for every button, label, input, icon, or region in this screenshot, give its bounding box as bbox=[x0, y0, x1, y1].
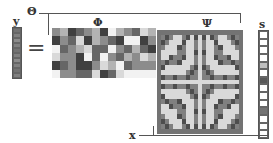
vector-cell bbox=[259, 115, 268, 123]
matrix-cell bbox=[124, 36, 132, 44]
vector-cell bbox=[259, 84, 268, 92]
matrix-cell bbox=[148, 53, 156, 61]
matrix-cell bbox=[124, 45, 132, 53]
matrix-cell bbox=[116, 45, 124, 53]
matrix-cell bbox=[100, 53, 108, 61]
vector-cell bbox=[259, 31, 268, 39]
matrix-cell bbox=[124, 70, 132, 78]
matrix-cell bbox=[76, 45, 84, 53]
vector-cell bbox=[259, 123, 268, 131]
vector-cell bbox=[259, 77, 268, 85]
matrix-cell bbox=[100, 45, 108, 53]
matrix-cell bbox=[132, 53, 140, 61]
matrix-cell bbox=[140, 28, 148, 36]
matrix-cell bbox=[108, 53, 116, 61]
matrix-cell bbox=[140, 61, 148, 69]
matrix-cell bbox=[148, 45, 156, 53]
vector-cell bbox=[13, 73, 21, 78]
matrix-cell bbox=[84, 70, 92, 78]
theta-bracket-right-tick bbox=[240, 13, 241, 23]
matrix-cell bbox=[140, 45, 148, 53]
matrix-cell bbox=[100, 61, 108, 69]
matrix-cell bbox=[100, 36, 108, 44]
matrix-cell bbox=[108, 45, 116, 53]
matrix-cell bbox=[239, 129, 243, 134]
matrix-cell bbox=[116, 70, 124, 78]
psi-matrix bbox=[157, 30, 243, 134]
matrix-cell bbox=[84, 28, 92, 36]
matrix-cell bbox=[60, 36, 68, 44]
matrix-cell bbox=[92, 28, 100, 36]
matrix-cell bbox=[68, 28, 76, 36]
matrix-cell bbox=[116, 61, 124, 69]
matrix-cell bbox=[60, 28, 68, 36]
matrix-cell bbox=[92, 53, 100, 61]
y-vector bbox=[12, 27, 22, 79]
matrix-cell bbox=[60, 61, 68, 69]
matrix-cell bbox=[132, 28, 140, 36]
vector-cell bbox=[259, 54, 268, 62]
matrix-cell bbox=[108, 28, 116, 36]
matrix-cell bbox=[140, 70, 148, 78]
matrix-cell bbox=[148, 70, 156, 78]
matrix-cell bbox=[76, 53, 84, 61]
matrix-cell bbox=[60, 45, 68, 53]
y-label: y bbox=[13, 16, 19, 27]
matrix-cell bbox=[76, 61, 84, 69]
x-bracket-right-tick bbox=[268, 126, 269, 136]
x-bracket-left-tick bbox=[153, 126, 154, 136]
x-label: x bbox=[129, 130, 136, 141]
matrix-cell bbox=[116, 53, 124, 61]
phi-label: Φ bbox=[93, 17, 103, 28]
s-label: s bbox=[259, 19, 265, 30]
matrix-cell bbox=[52, 53, 60, 61]
s-vector bbox=[258, 30, 269, 139]
matrix-cell bbox=[84, 36, 92, 44]
matrix-cell bbox=[52, 36, 60, 44]
matrix-cell bbox=[52, 28, 60, 36]
matrix-cell bbox=[148, 28, 156, 36]
vector-cell bbox=[259, 39, 268, 47]
matrix-cell bbox=[92, 61, 100, 69]
matrix-cell bbox=[60, 70, 68, 78]
matrix-cell bbox=[52, 61, 60, 69]
matrix-cell bbox=[84, 61, 92, 69]
matrix-cell bbox=[124, 53, 132, 61]
matrix-cell bbox=[60, 53, 68, 61]
matrix-cell bbox=[84, 53, 92, 61]
phi-matrix bbox=[52, 28, 156, 78]
vector-cell bbox=[259, 46, 268, 54]
matrix-cell bbox=[68, 36, 76, 44]
matrix-cell bbox=[132, 70, 140, 78]
matrix-cell bbox=[116, 36, 124, 44]
matrix-cell bbox=[132, 61, 140, 69]
matrix-cell bbox=[140, 53, 148, 61]
matrix-cell bbox=[100, 70, 108, 78]
equals-sign: = bbox=[27, 37, 45, 59]
matrix-cell bbox=[148, 36, 156, 44]
x-bracket-bottom bbox=[139, 135, 269, 136]
matrix-cell bbox=[132, 36, 140, 44]
theta-bracket-left-tick bbox=[48, 13, 49, 35]
matrix-cell bbox=[124, 61, 132, 69]
matrix-cell bbox=[92, 45, 100, 53]
vector-cell bbox=[259, 107, 268, 115]
psi-label: Ψ bbox=[202, 18, 212, 29]
theta-label: Θ bbox=[27, 6, 37, 17]
matrix-cell bbox=[52, 70, 60, 78]
matrix-cell bbox=[76, 36, 84, 44]
matrix-cell bbox=[108, 70, 116, 78]
matrix-cell bbox=[92, 70, 100, 78]
theta-bracket-top bbox=[39, 13, 241, 14]
matrix-cell bbox=[116, 28, 124, 36]
matrix-cell bbox=[68, 45, 76, 53]
matrix-cell bbox=[108, 36, 116, 44]
matrix-cell bbox=[92, 36, 100, 44]
matrix-cell bbox=[84, 45, 92, 53]
matrix-cell bbox=[68, 61, 76, 69]
vector-cell bbox=[259, 62, 268, 70]
matrix-cell bbox=[124, 28, 132, 36]
matrix-cell bbox=[140, 36, 148, 44]
matrix-cell bbox=[68, 70, 76, 78]
matrix-cell bbox=[100, 28, 108, 36]
